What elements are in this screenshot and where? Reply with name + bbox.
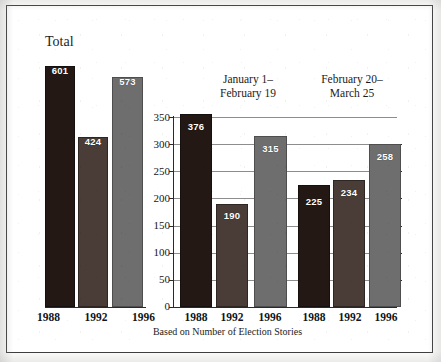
- y-tick-100: [169, 253, 174, 254]
- figure-caption: Based on Number of Election Stories: [7, 326, 441, 337]
- grid-chart-baseline: [174, 307, 397, 308]
- y-axis-label-200: 200: [140, 192, 170, 204]
- y-tick-50: [169, 280, 174, 281]
- figure-root: Total 601 424 573 1988 1992 1996: [0, 0, 441, 362]
- bar-value-feb-1992: 234: [333, 187, 365, 198]
- bar-feb-1996: [369, 144, 401, 307]
- x-label-feb-1988: 1988: [297, 311, 331, 323]
- x-label-feb-1992: 1992: [333, 311, 367, 323]
- x-label-jan-1996: 1996: [253, 311, 287, 323]
- x-label-jan-1988: 1988: [179, 311, 213, 323]
- y-tick-350: [169, 117, 174, 118]
- x-label-feb-1996: 1996: [369, 311, 403, 323]
- group-heading-february: February 20– March 25: [297, 72, 407, 100]
- bar-jan-1996: [254, 136, 287, 307]
- group-heading-february-line2: March 25: [297, 86, 407, 100]
- bar-value-feb-1988: 225: [298, 196, 330, 207]
- y-tick-200: [169, 198, 174, 199]
- y-axis-label-350: 350: [140, 111, 170, 123]
- bar-value-jan-1996: 315: [254, 143, 287, 154]
- grouped-bar-chart: January 1– February 19 February 20– Marc…: [7, 6, 441, 362]
- bar-jan-1988: [180, 114, 212, 307]
- x-label-jan-1992: 1992: [215, 311, 249, 323]
- y-axis-label-250: 250: [140, 165, 170, 177]
- y-axis-label-300: 300: [140, 138, 170, 150]
- group-heading-january-line2: February 19: [193, 86, 303, 100]
- grid-plot-area: 376 190 315 225 234 258: [174, 117, 397, 307]
- y-axis-label-150: 150: [140, 219, 170, 231]
- y-tick-250: [169, 171, 174, 172]
- y-axis-label-100: 100: [140, 246, 170, 258]
- y-tick-300: [169, 144, 174, 145]
- y-tick-150: [169, 226, 174, 227]
- y-axis-label-50: 50: [140, 273, 170, 285]
- figure-frame: Total 601 424 573 1988 1992 1996: [6, 5, 433, 353]
- bar-value-jan-1988: 376: [180, 121, 212, 132]
- y-axis-label-0: 0: [140, 300, 170, 312]
- group-heading-february-line1: February 20–: [297, 72, 407, 86]
- bar-value-jan-1992: 190: [216, 210, 248, 221]
- bar-value-feb-1996: 258: [369, 151, 401, 162]
- group-heading-january-line1: January 1–: [193, 72, 303, 86]
- group-heading-january: January 1– February 19: [193, 72, 303, 100]
- bar-feb-1992: [333, 180, 365, 307]
